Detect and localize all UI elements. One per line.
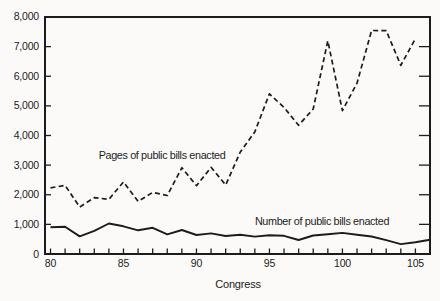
line-chart: 0 1,000 2,000 3,000 4,000 5,000 6,000 7,… [0,0,440,301]
y-tick-label-0: 0 [33,248,39,260]
x-tick-label-95: 95 [264,257,276,269]
x-tick-label-100: 100 [334,257,351,269]
bills-series-label: Number of public bills enacted [255,215,389,227]
x-tick-label-105: 105 [407,257,424,269]
x-axis-title: Congress [215,278,261,290]
bills-series-line [51,224,431,245]
pages-series-line [51,31,416,208]
pages-series-label: Pages of public bills enacted [99,149,226,161]
x-tick-label-85: 85 [118,257,130,269]
y-tick-label-6000: 6,000 [14,70,40,82]
chart-figure: 0 1,000 2,000 3,000 4,000 5,000 6,000 7,… [0,0,440,301]
y-tick-label-3000: 3,000 [14,159,40,171]
y-tick-label-7000: 7,000 [14,40,40,52]
y-tick-label-5000: 5,000 [14,99,40,111]
y-tick-label-4000: 4,000 [14,129,40,141]
y-tick-label-1000: 1,000 [14,218,40,230]
x-axis-labels: 80 85 90 95 100 105 [45,257,424,269]
y-tick-label-8000: 8,000 [14,10,40,22]
x-tick-label-90: 90 [191,257,203,269]
x-tick-label-80: 80 [45,257,57,269]
y-axis-labels: 0 1,000 2,000 3,000 4,000 5,000 6,000 7,… [14,10,40,259]
y-tick-label-2000: 2,000 [14,188,40,200]
